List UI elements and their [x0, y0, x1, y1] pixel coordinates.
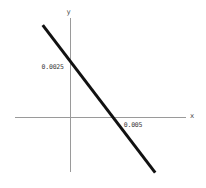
x-axis-tick-label: 0.005: [124, 122, 143, 129]
x-axis-label: x: [190, 113, 194, 120]
data-line-series-1: [43, 25, 155, 172]
y-axis-tick-label: 0.0025: [42, 64, 64, 71]
plot-figure: y x 0.0025 0.005: [0, 0, 206, 188]
plot-canvas: [0, 0, 206, 188]
y-axis-label: y: [67, 9, 71, 16]
